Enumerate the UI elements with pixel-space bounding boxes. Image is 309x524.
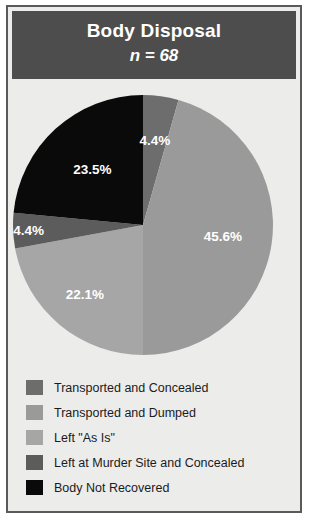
legend-swatch-icon — [26, 380, 43, 395]
legend-swatch-icon — [26, 405, 43, 420]
chart-header: Body Disposal n = 68 — [12, 11, 296, 79]
legend-item-label: Transported and Dumped — [54, 406, 196, 420]
pie-data-label-left-as-is: 22.1% — [66, 287, 104, 302]
legend-item-label: Left "As Is" — [54, 431, 115, 445]
legend-item-label: Body Not Recovered — [54, 481, 169, 495]
legend-item-body-not-recovered[interactable]: Body Not Recovered — [26, 475, 288, 500]
legend-item-transported-and-concealed[interactable]: Transported and Concealed — [26, 375, 288, 400]
legend-item-left-at-murder-site-and-concealed[interactable]: Left at Murder Site and Concealed — [26, 450, 288, 475]
pie-slice-body-not-recovered[interactable] — [14, 95, 143, 225]
legend-swatch-icon — [26, 480, 43, 495]
legend-swatch-icon — [26, 430, 43, 445]
legend-item-label: Left at Murder Site and Concealed — [54, 456, 244, 470]
legend-item-label: Transported and Concealed — [54, 381, 209, 395]
legend-item-transported-and-dumped[interactable]: Transported and Dumped — [26, 400, 288, 425]
chart-figure: Body Disposal n = 68 4.4%45.6%22.1%4.4%2… — [6, 5, 302, 513]
legend-item-left-as-is[interactable]: Left "As Is" — [26, 425, 288, 450]
pie-chart: 4.4%45.6%22.1%4.4%23.5% — [12, 83, 296, 365]
chart-legend: Transported and ConcealedTransported and… — [26, 375, 288, 500]
pie-chart-plot-area: 4.4%45.6%22.1%4.4%23.5% — [12, 83, 296, 365]
chart-sample-size: n = 68 — [12, 44, 296, 68]
pie-data-label-transported-and-dumped: 45.6% — [204, 229, 242, 244]
pie-data-label-left-at-murder-site-and-concealed: 4.4% — [13, 223, 44, 238]
page-title: Body Disposal — [12, 18, 296, 44]
legend-swatch-icon — [26, 455, 43, 470]
pie-data-label-body-not-recovered: 23.5% — [73, 162, 111, 177]
pie-data-label-transported-and-concealed: 4.4% — [139, 133, 170, 148]
